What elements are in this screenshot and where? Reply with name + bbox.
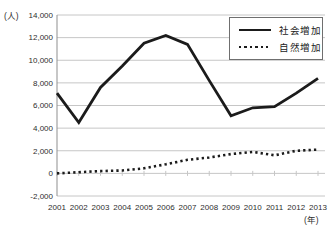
legend-label-natural-increase: 自然増加 [279, 40, 321, 54]
x-axis-tick-label: 2010 [244, 203, 262, 212]
x-axis-tick-label: 2007 [179, 203, 197, 212]
y-axis-tick-label: 14,000 [29, 11, 54, 20]
x-axis-tick-label: 2008 [200, 203, 218, 212]
legend-item-natural-increase: 自然増加 [239, 40, 322, 54]
y-axis-tick-label: 0 [49, 169, 54, 178]
legend-item-social-increase: 社会増加 [239, 23, 322, 37]
x-axis-tick-label: 2011 [266, 203, 284, 212]
y-axis-tick-label: 10,000 [29, 56, 54, 65]
y-axis-tick-label: 2,000 [33, 147, 54, 156]
x-axis-tick-label: 2004 [113, 203, 131, 212]
x-axis-tick-label: 2009 [222, 203, 240, 212]
x-axis-tick-label: 2002 [70, 203, 88, 212]
x-axis-tick-label: 2001 [48, 203, 66, 212]
x-axis-tick-label: 2003 [92, 203, 110, 212]
dotted-line-sample [239, 46, 271, 49]
x-axis-tick-label: 2012 [287, 203, 305, 212]
y-axis-tick-label: 6,000 [33, 101, 54, 110]
x-axis-tick-label: 2006 [157, 203, 175, 212]
y-axis-tick-label: 4,000 [33, 124, 54, 133]
y-axis-tick-label: 8,000 [33, 79, 54, 88]
natural-increase-line [57, 150, 318, 174]
x-axis-unit-label: (年) [304, 213, 319, 225]
solid-line-sample [239, 29, 271, 31]
y-axis-tick-label: 12,000 [29, 33, 54, 42]
legend-label-social-increase: 社会増加 [279, 23, 321, 37]
x-axis-tick-label: 2005 [135, 203, 153, 212]
chart-legend: 社会増加 自然増加 [229, 17, 323, 60]
y-axis-tick-label: -2,000 [30, 192, 53, 201]
x-axis-tick-label: 2013 [309, 203, 327, 212]
chart-figure: (人) -2,00002,0004,0006,0008,00010,00012,… [0, 0, 335, 242]
